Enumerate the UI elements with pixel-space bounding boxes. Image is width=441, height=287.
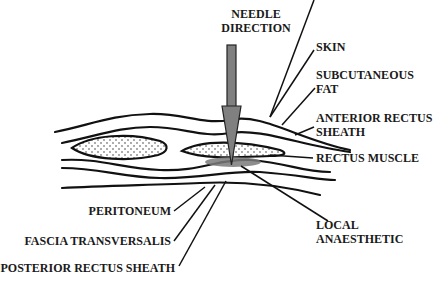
- label-peritoneum: PERITONEUM: [89, 204, 171, 218]
- label-needle-direction-2: DIRECTION: [221, 21, 291, 35]
- label-rectus-muscle: RECTUS MUSCLE: [316, 151, 419, 165]
- posterior-sheath-line: [62, 160, 330, 172]
- label-local-anaesthetic-1: LOCAL: [316, 218, 359, 232]
- label-needle-direction-1: NEEDLE: [231, 7, 280, 21]
- label-posterior-rectus-sheath: POSTERIOR RECTUS SHEATH: [1, 261, 176, 275]
- fascia-line: [62, 168, 335, 180]
- label-anterior-rectus-sheath-1: ANTERIOR RECTUS: [316, 111, 433, 125]
- label-subcutaneous-fat-1: SUBCUTANEOUS: [316, 68, 414, 82]
- peritoneum-line: [62, 183, 320, 196]
- label-local-anaesthetic-2: ANAESTHETIC: [316, 232, 403, 246]
- label-fascia-transversalis: FASCIA TRANSVERSALIS: [24, 234, 171, 248]
- rectus-muscle-left: [72, 136, 167, 159]
- label-anterior-rectus-sheath-2: SHEATH: [316, 125, 366, 139]
- needle-insertion-diagram: NEEDLE DIRECTION SKIN SUBCUTANEOUS FAT A…: [0, 0, 441, 287]
- label-subcutaneous-fat-2: FAT: [316, 82, 338, 96]
- label-skin: SKIN: [316, 40, 346, 54]
